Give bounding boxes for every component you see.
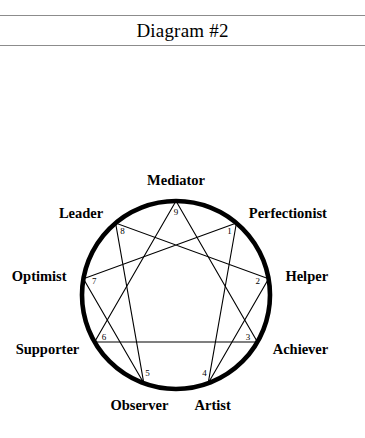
enneagram-point-label-optimist: Optimist <box>12 268 67 284</box>
page-header: Diagram #2 <box>0 0 365 60</box>
enneagram-outer-circle <box>82 201 270 389</box>
enneagram-point-number-6: 6 <box>102 332 107 341</box>
enneagram-point-label-supporter: Supporter <box>16 341 80 357</box>
enneagram-point-label-observer: Observer <box>110 397 168 413</box>
enneagram-point-label-mediator: Mediator <box>147 172 205 188</box>
enneagram-point-label-helper: Helper <box>285 268 328 284</box>
enneagram-point-number-9: 9 <box>174 208 179 217</box>
enneagram-point-label-achiever: Achiever <box>273 341 329 357</box>
enneagram-line-path <box>83 223 268 383</box>
enneagram-point-label-perfectionist: Perfectionist <box>249 205 327 221</box>
enneagram-point-number-4: 4 <box>202 369 207 378</box>
enneagram-point-number-2: 2 <box>255 276 260 285</box>
enneagram-point-number-3: 3 <box>246 332 251 341</box>
enneagram-point-number-7: 7 <box>92 276 97 285</box>
enneagram-figure <box>0 60 365 438</box>
page-title: Diagram #2 <box>0 19 365 43</box>
enneagram-point-number-1: 1 <box>227 227 232 236</box>
header-rule-bottom <box>0 45 365 46</box>
enneagram-diagram: 1Perfectionist2Helper3Achiever4Artist5Ob… <box>0 60 365 438</box>
header-rule-top <box>0 15 365 16</box>
enneagram-point-label-leader: Leader <box>59 205 103 221</box>
enneagram-point-number-5: 5 <box>145 369 150 378</box>
enneagram-point-label-artist: Artist <box>194 397 230 413</box>
enneagram-point-number-8: 8 <box>120 227 125 236</box>
